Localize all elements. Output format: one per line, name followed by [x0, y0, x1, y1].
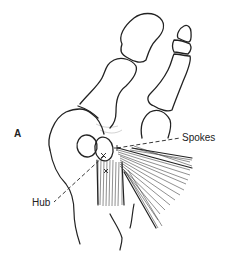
muscle-fan-spokes: [118, 146, 192, 228]
bone-upper-middle: [121, 14, 164, 63]
joint-shading: [96, 124, 122, 133]
forearm-inner-left: [110, 214, 122, 250]
bone-middle-long: [80, 58, 136, 128]
panel-label: A: [14, 128, 21, 139]
hub-label: Hub: [32, 197, 51, 208]
spokes-label: Spokes: [182, 132, 215, 143]
forearm-inner-right: [130, 204, 134, 228]
spokes-leader-line: [117, 138, 180, 148]
bone-right-tip: [177, 25, 191, 42]
forearm-left-outline: [50, 150, 80, 244]
anatomy-diagram: A Spokes Hub: [0, 0, 230, 260]
muscle-bundle-vertical: [97, 160, 124, 206]
bone-right-long: [148, 54, 190, 111]
bone-right-lower: [141, 110, 171, 138]
